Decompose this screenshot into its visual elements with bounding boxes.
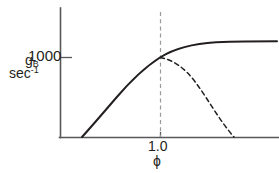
y-axis-title-line-2: sec-1 <box>9 68 39 81</box>
chart-figure: 1000 gB sec-1 1.0 ϕ <box>0 0 279 173</box>
plot-canvas <box>0 0 279 173</box>
x-axis-title: ϕ <box>153 154 161 168</box>
dashed-curve <box>160 58 234 138</box>
solid-curve <box>82 41 277 137</box>
y-axis-title-unit: sec <box>9 65 31 81</box>
x-tick-label-1.0: 1.0 <box>148 139 167 153</box>
y-axis-title: gB sec-1 <box>9 55 39 81</box>
y-axis-title-exponent: -1 <box>31 65 39 75</box>
